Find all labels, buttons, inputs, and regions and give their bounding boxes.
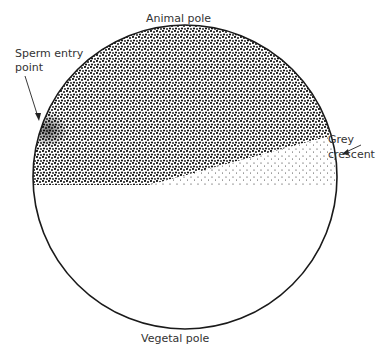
sperm-entry-spot	[28, 112, 68, 148]
sperm-entry-arrow	[25, 76, 41, 121]
sperm-entry-label-line1: Sperm entry	[15, 47, 83, 60]
grey-crescent-label-line2: crescent	[328, 148, 375, 161]
vegetal-pole-label: Vegetal pole	[141, 332, 209, 345]
grey-crescent-label-line1: Grey	[328, 133, 354, 146]
animal-pole-label: Animal pole	[146, 12, 211, 25]
sperm-entry-label-line2: point	[15, 61, 43, 74]
